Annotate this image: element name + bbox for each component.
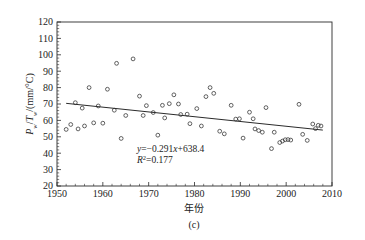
y-tick-label: 20 <box>43 180 53 191</box>
x-axis-title: 年份 <box>184 202 204 214</box>
x-tick-label: 1970 <box>139 188 159 199</box>
y-tick-label: 110 <box>38 33 53 44</box>
x-tick-label: 1960 <box>93 188 113 199</box>
x-tick-label: 2000 <box>276 188 296 199</box>
y-tick-label: 90 <box>43 66 53 77</box>
x-tick-label: 2010 <box>322 188 342 199</box>
y-tick-label: 100 <box>38 49 53 60</box>
figure-container: 1950196019701980199020002010 20304050607… <box>0 0 365 240</box>
chart-background <box>0 0 365 240</box>
x-tick-label: 1980 <box>185 188 205 199</box>
y-tick-label: 30 <box>43 164 53 175</box>
x-tick-label: 1990 <box>230 188 250 199</box>
y-tick-label: 120 <box>38 16 53 27</box>
regression-equation-label: y=−0.291x+638.4 <box>136 144 205 154</box>
figure-caption: (c) <box>188 219 199 231</box>
scatter-chart: 1950196019701980199020002010 20304050607… <box>0 0 365 240</box>
y-tick-label: 70 <box>43 98 53 109</box>
y-tick-label: 80 <box>43 82 53 93</box>
y-tick-label: 50 <box>43 131 53 142</box>
y-tick-label: 60 <box>43 115 53 126</box>
r-squared-label: R2=0.177 <box>136 154 173 166</box>
y-tick-label: 40 <box>43 148 53 159</box>
